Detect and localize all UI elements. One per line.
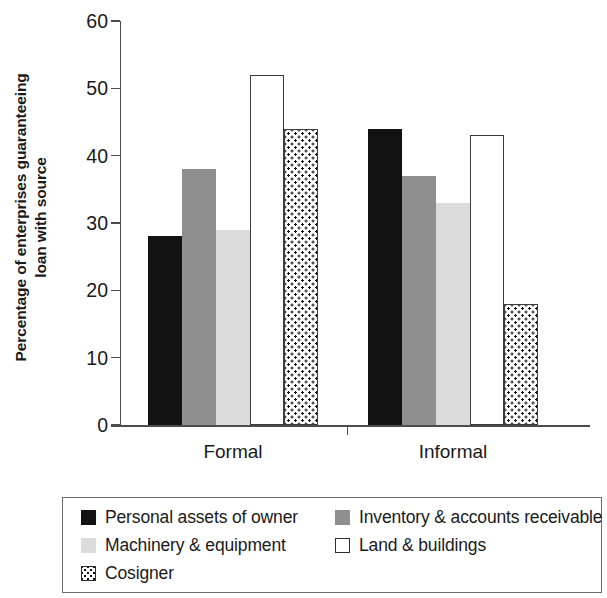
legend-swatch-icon xyxy=(81,538,96,553)
x-axis-line xyxy=(111,425,590,427)
legend-item[interactable]: Personal assets of owner xyxy=(81,507,298,528)
legend-swatch-icon xyxy=(335,538,350,553)
y-axis-tick-label: 0 xyxy=(62,414,108,437)
bar-formal-series-1 xyxy=(182,169,216,425)
legend-item[interactable]: Land & buildings xyxy=(335,535,486,556)
y-axis-tick xyxy=(111,290,120,291)
bar-formal-series-4 xyxy=(284,129,318,425)
legend-item[interactable]: Machinery & equipment xyxy=(81,535,286,556)
y-axis-tick-label: 30 xyxy=(62,212,108,235)
y-axis-tick xyxy=(111,424,120,425)
y-axis-tick-label: 50 xyxy=(62,77,108,100)
y-axis-line xyxy=(120,21,121,425)
bar-chart: Percentage of enterprises guaranteeing l… xyxy=(0,0,607,598)
y-axis-title-line1: Percentage of enterprises guaranteeing xyxy=(12,73,29,361)
bar-formal-series-0 xyxy=(148,236,182,425)
legend-label: Personal assets of owner xyxy=(105,507,298,528)
legend-item[interactable]: Inventory & accounts receivable xyxy=(335,507,602,528)
plot-area: 0102030405060 xyxy=(120,21,590,425)
legend-swatch-icon xyxy=(81,510,96,525)
y-axis-tick-label: 20 xyxy=(62,279,108,302)
bar-informal-series-2 xyxy=(436,203,470,425)
y-axis-title-line2: loan with source xyxy=(31,73,51,361)
legend-label: Machinery & equipment xyxy=(105,535,286,556)
legend-label: Cosigner xyxy=(105,563,174,584)
y-axis-tick xyxy=(111,20,120,21)
legend-label: Inventory & accounts receivable xyxy=(359,507,602,528)
legend-label: Land & buildings xyxy=(359,535,486,556)
y-axis-tick-label: 60 xyxy=(62,10,108,33)
y-axis-tick xyxy=(111,357,120,358)
y-axis-tick xyxy=(111,88,120,89)
y-axis-tick xyxy=(111,222,120,223)
bar-informal-series-0 xyxy=(368,129,402,425)
bar-formal-series-2 xyxy=(216,230,250,425)
x-axis-group-separator-tick xyxy=(347,426,348,435)
legend: Personal assets of ownerInventory & acco… xyxy=(62,497,602,593)
bar-informal-series-3 xyxy=(470,135,504,425)
legend-item[interactable]: Cosigner xyxy=(81,563,174,584)
y-axis-tick xyxy=(111,155,120,156)
y-axis-title: Percentage of enterprises guaranteeing l… xyxy=(0,0,62,435)
x-axis-label-formal: Formal xyxy=(163,441,303,463)
y-axis-tick-label: 40 xyxy=(62,144,108,167)
bar-informal-series-4 xyxy=(504,304,538,425)
legend-swatch-icon xyxy=(81,566,96,581)
legend-swatch-icon xyxy=(335,510,350,525)
bar-formal-series-3 xyxy=(250,75,284,425)
bar-informal-series-1 xyxy=(402,176,436,425)
x-axis-label-informal: Informal xyxy=(383,441,523,463)
y-axis-tick-label: 10 xyxy=(62,346,108,369)
